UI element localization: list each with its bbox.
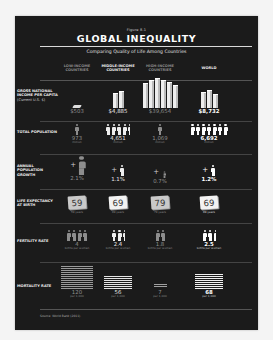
infographic-panel: Figure 8.1 GLOBAL INEQUALITY Comparing Q… xyxy=(15,16,258,330)
growth-icon-group: + xyxy=(55,156,99,175)
life-low: 59 59 years xyxy=(55,196,99,214)
row-divider xyxy=(40,189,252,190)
person-icon xyxy=(117,230,122,241)
plus-icon: + xyxy=(70,162,76,169)
person-icon xyxy=(208,230,213,241)
person-icon-group xyxy=(55,230,99,241)
person-icon-small xyxy=(163,171,166,178)
person-icon xyxy=(122,124,127,135)
person-icon xyxy=(212,124,217,135)
calendar-icon: 69 xyxy=(109,195,128,209)
growth-icon-group: + xyxy=(138,167,182,178)
person-icon-group xyxy=(187,230,231,241)
population-world: 6,692 million xyxy=(182,124,236,144)
gni-value-low: $503 xyxy=(55,108,99,114)
person-icon-group xyxy=(55,124,99,135)
mortality-world: 68 per 1,000 xyxy=(187,274,231,298)
gni-label: GROSS NATIONAL INCOME PER CAPITA xyxy=(17,89,58,97)
gni-value-high: $39,654 xyxy=(138,108,182,114)
chart-title: GLOBAL INEQUALITY xyxy=(15,33,258,44)
growth-world: + 1.2% xyxy=(187,165,231,182)
person-icon-group xyxy=(138,124,182,135)
mortality-unit-middle: per 1,000 xyxy=(96,295,140,298)
growth-high: + 0.7% xyxy=(138,167,182,184)
mortality-high: 7 per 1,000 xyxy=(138,284,182,298)
gni-value-world: $8,732 xyxy=(187,108,231,114)
column-header-world: WORLD xyxy=(187,66,231,70)
figure-label: Figure 8.1 xyxy=(15,28,258,32)
population-unit-low: million xyxy=(55,141,99,144)
population-unit-middle: million xyxy=(96,141,140,144)
row-label-fertility: FERTILITY RATE xyxy=(9,239,59,243)
growth-icon-group: + xyxy=(187,165,231,176)
person-icon xyxy=(190,124,195,135)
population-middle: 4,651 million xyxy=(96,124,140,144)
calendar-icon: 59 xyxy=(68,195,87,209)
column-header-middle-income: MIDDLE-INCOME COUNTRIES xyxy=(96,64,140,73)
life-unit-world: 69 years xyxy=(187,211,231,214)
mortality-unit-world: per 1,000 xyxy=(187,295,231,298)
population-unit-world: million xyxy=(182,141,236,144)
person-icon-partial xyxy=(123,230,125,241)
mortality-unit-high: per 1,000 xyxy=(138,295,182,298)
life-unit-low: 59 years xyxy=(55,211,99,214)
row-divider xyxy=(40,121,252,122)
life-middle: 69 69 years xyxy=(96,196,140,214)
gni-sublabel: (Current U.S. $) xyxy=(17,98,45,102)
dot-matrix-icon xyxy=(154,284,167,287)
fertility-unit-low: births per woman xyxy=(55,247,99,250)
bottom-rule xyxy=(40,309,252,310)
person-icon-group xyxy=(96,230,140,241)
money-blocks-icon xyxy=(140,78,180,108)
growth-low: + 2.1% xyxy=(55,156,99,181)
person-icon xyxy=(83,230,88,241)
person-icon xyxy=(196,124,201,135)
person-icon xyxy=(66,230,71,241)
dot-matrix-icon xyxy=(195,274,223,289)
population-low: 973 million xyxy=(55,124,99,144)
row-label-mortality: MORTALITY RATE xyxy=(9,284,59,288)
coin-stack-icon xyxy=(55,98,99,108)
growth-icon-group: + xyxy=(96,165,140,176)
gni-high: $39,654 xyxy=(138,78,182,114)
money-blocks-icon xyxy=(96,88,140,108)
mortality-low: 120 per 1,000 xyxy=(55,265,99,298)
mortality-middle: 56 per 1,000 xyxy=(96,276,140,298)
person-icon-group xyxy=(138,230,182,241)
person-icon xyxy=(218,124,223,135)
person-icon-partial xyxy=(161,230,165,241)
row-label-population: TOTAL POPULATION xyxy=(9,130,59,134)
row-label-gni: GROSS NATIONAL INCOME PER CAPITA (Curren… xyxy=(9,89,59,102)
life-high: 79 79 years xyxy=(138,196,182,214)
fertility-low: 4 births per woman xyxy=(55,230,99,250)
fertility-world: 2.5 births per woman xyxy=(187,230,231,250)
plus-icon: + xyxy=(202,167,208,174)
growth-middle: + 1.1% xyxy=(96,165,140,182)
row-label-life-expectancy: LIFE EXPECTANCY AT BIRTH xyxy=(9,199,59,208)
row-label-growth: ANNUAL POPULATION GROWTH xyxy=(9,164,59,177)
gni-value-middle: $4,885 xyxy=(96,108,140,114)
person-icon-group xyxy=(182,124,236,135)
life-world: 69 69 years xyxy=(187,196,231,214)
title-rule xyxy=(40,46,252,47)
gni-world: $8,732 xyxy=(187,88,231,114)
person-icon-large xyxy=(77,156,86,175)
person-icon xyxy=(223,124,228,135)
person-icon xyxy=(155,230,160,241)
population-high: 1,069 million xyxy=(138,124,182,144)
calendar-icon: 79 xyxy=(151,195,170,209)
plus-icon: + xyxy=(153,169,159,176)
person-icon xyxy=(158,124,163,135)
person-icon xyxy=(75,124,80,135)
gni-middle: $4,885 xyxy=(96,88,140,114)
gni-low: $503 xyxy=(55,98,99,114)
row-divider xyxy=(40,154,252,155)
person-icon xyxy=(120,165,125,176)
life-unit-middle: 69 years xyxy=(96,211,140,214)
growth-value-middle: 1.1% xyxy=(96,176,140,182)
person-icon xyxy=(201,124,206,135)
person-icon xyxy=(72,230,77,241)
person-icon xyxy=(207,124,212,135)
chart-subtitle: Comparing Quality of Life Among Countrie… xyxy=(15,49,258,54)
fertility-unit-middle: births per woman xyxy=(96,247,140,250)
